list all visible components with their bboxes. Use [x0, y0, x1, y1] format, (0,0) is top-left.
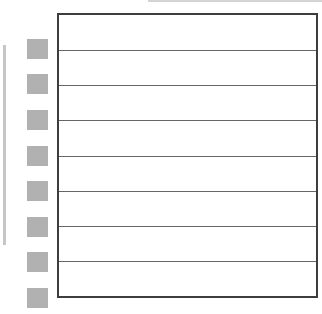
icon-placeholder-square: [27, 181, 48, 201]
table-row: [59, 15, 316, 50]
table-row: [59, 120, 316, 155]
icon-placeholder-square: [27, 217, 48, 237]
top-edge-artifact: [148, 0, 322, 2]
left-edge-bar: [3, 45, 6, 245]
icon-strip: [27, 0, 48, 314]
icon-placeholder-square: [27, 288, 48, 308]
table-row: [59, 226, 316, 261]
table-row: [59, 191, 316, 226]
table-row: [59, 85, 316, 120]
empty-table: [57, 13, 318, 298]
icon-placeholder-square: [27, 146, 48, 166]
table-row: [59, 50, 316, 85]
table-row: [59, 261, 316, 296]
page: [0, 0, 322, 314]
icon-placeholder-square: [27, 252, 48, 272]
icon-placeholder-square: [27, 39, 48, 59]
icon-placeholder-square: [27, 110, 48, 130]
icon-placeholder-square: [27, 74, 48, 94]
table-row: [59, 156, 316, 191]
